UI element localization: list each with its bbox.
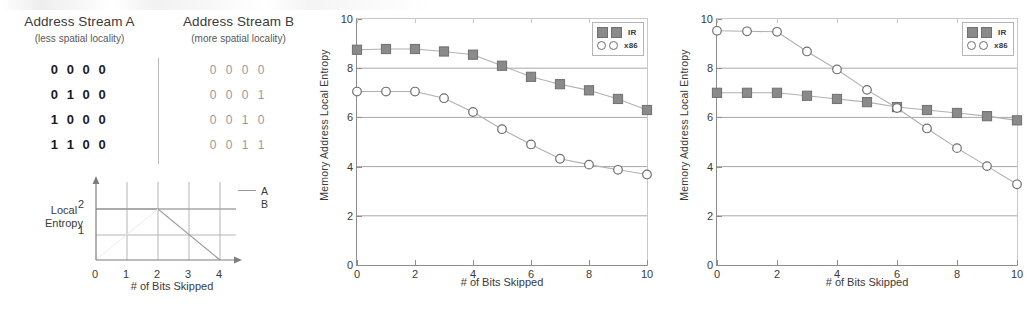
x-tick-mark (957, 260, 958, 265)
x-tick-mark-top (717, 19, 718, 23)
stream-a-subtitle: (less spatial locality) (0, 33, 159, 44)
x-tick-mark-top (415, 19, 416, 23)
y-tick-label: 10 (341, 13, 353, 25)
chart-right-plot-area: IR x86 02468100246810 (716, 18, 1018, 266)
x-tick-mark-top (473, 19, 474, 23)
schematic-legend-label-a: A (261, 185, 268, 197)
x-tick-mark-top (957, 19, 958, 23)
stream-column-divider (158, 58, 159, 164)
x-tick-mark (837, 260, 838, 265)
stream-a-value: 0 0 0 0 (0, 62, 159, 77)
y-tick-label: 8 (707, 62, 713, 74)
y-tick-label: 4 (707, 161, 713, 173)
legend-label-ir: IR (998, 28, 1006, 37)
stream-b-value: 0 0 1 0 (159, 113, 318, 127)
stream-b-value: 0 0 1 1 (159, 138, 318, 152)
schematic-xtick-4: 4 (216, 268, 222, 280)
schematic-legend-item-b: B (238, 197, 268, 210)
chart-middle-legend: IR x86 (592, 22, 644, 56)
y-tick-label: 4 (347, 161, 353, 173)
chart-right-y-axis-title: Memory Address Local Entropy (676, 0, 692, 250)
stream-b-subtitle: (more spatial locality) (159, 33, 318, 44)
open-circle-icon (967, 41, 976, 50)
chart-right-legend: IR x86 (962, 22, 1014, 56)
schematic-ytick-2: 2 (78, 198, 84, 210)
schematic-xtick-0: 0 (92, 268, 98, 280)
schematic-y-line1: Local (51, 204, 77, 216)
table-row: 0 1 0 0 0 0 0 1 (0, 82, 318, 107)
stream-b-value: 0 0 0 1 (159, 88, 318, 102)
y-tick-mark (717, 68, 722, 69)
stream-rows: 0 0 0 0 0 0 0 0 0 1 0 0 0 0 0 1 1 0 0 0 … (0, 57, 318, 157)
x-tick-mark-top (777, 19, 778, 23)
y-tick-mark (357, 68, 362, 69)
y-tick-label: 6 (347, 111, 353, 123)
chart-right-x-axis-title: # of Bits Skipped (716, 276, 1018, 288)
y-tick-mark (357, 265, 362, 266)
y-tick-mark (717, 265, 722, 266)
x-tick-mark (777, 260, 778, 265)
x-tick-mark-top (589, 19, 590, 23)
y-tick-label: 0 (347, 259, 353, 271)
x-tick-mark-top (647, 19, 648, 23)
y-tick-mark (357, 216, 362, 217)
stream-column-a-header: Address Stream A (less spatial locality) (0, 14, 159, 44)
y-tick-mark (357, 117, 362, 118)
stream-b-value: 0 0 0 0 (159, 63, 318, 77)
y-tick-mark (717, 167, 722, 168)
stream-column-b-header: Address Stream B (more spatial locality) (159, 14, 318, 44)
filled-square-icon (967, 27, 978, 38)
table-row: 0 0 0 0 0 0 0 0 (0, 57, 318, 82)
chart-middle: Memory Address Local Entropy IR x86 0246… (318, 0, 658, 316)
open-circle-icon (597, 41, 606, 50)
legend-label-x86: x86 (624, 41, 638, 50)
x-tick-mark (647, 260, 648, 265)
legend-item-x86: x86 (967, 39, 1008, 52)
x-tick-mark (589, 260, 590, 265)
y-tick-label: 2 (347, 210, 353, 222)
legend-line-icon (238, 190, 256, 191)
stream-a-title: Address Stream A (0, 14, 159, 29)
schematic-plot-area: A B (96, 182, 236, 266)
schematic-xtick-2: 2 (154, 268, 160, 280)
schematic-chart: Local Entropy (36, 176, 286, 296)
x-tick-mark (531, 260, 532, 265)
stream-headers: Address Stream A (less spatial locality)… (0, 14, 318, 44)
open-circle-icon (979, 41, 988, 50)
legend-line-icon (238, 203, 256, 204)
x-tick-mark (357, 260, 358, 265)
filled-square-icon (981, 27, 992, 38)
y-tick-label: 8 (347, 62, 353, 74)
stream-a-value: 1 1 0 0 (0, 137, 159, 152)
chart-middle-y-axis-title: Memory Address Local Entropy (316, 0, 332, 250)
y-tick-label: 2 (707, 210, 713, 222)
filled-square-icon (597, 27, 608, 38)
schematic-xtick-3: 3 (185, 268, 191, 280)
x-tick-mark-top (357, 19, 358, 23)
filled-square-icon (611, 27, 622, 38)
chart-middle-x-axis-title: # of Bits Skipped (356, 276, 648, 288)
y-tick-label: 0 (707, 259, 713, 271)
legend-label-ir: IR (628, 28, 636, 37)
schematic-legend-item-a: A (238, 184, 268, 197)
y-tick-mark (717, 216, 722, 217)
x-tick-mark-top (897, 19, 898, 23)
chart-middle-plot-area: IR x86 02468100246810 (356, 18, 648, 266)
y-tick-mark (357, 167, 362, 168)
schematic-x-axis-title: # of Bits Skipped (72, 280, 272, 292)
address-streams-table: Address Stream A (less spatial locality)… (0, 14, 318, 157)
y-tick-label: 6 (707, 111, 713, 123)
table-row: 1 0 0 0 0 0 1 0 (0, 107, 318, 132)
stream-b-title: Address Stream B (159, 14, 318, 29)
y-tick-label: 10 (701, 13, 713, 25)
x-tick-mark (415, 260, 416, 265)
stream-a-value: 1 0 0 0 (0, 112, 159, 127)
table-row: 1 1 0 0 0 0 1 1 (0, 132, 318, 157)
open-circle-icon (609, 41, 618, 50)
legend-item-ir: IR (967, 26, 1008, 39)
schematic-legend: A B (238, 184, 268, 210)
x-tick-mark-top (1017, 19, 1018, 23)
x-tick-mark (1017, 260, 1018, 265)
schematic-legend-label-b: B (261, 198, 268, 210)
address-streams-panel: Address Stream A (less spatial locality)… (0, 0, 318, 316)
